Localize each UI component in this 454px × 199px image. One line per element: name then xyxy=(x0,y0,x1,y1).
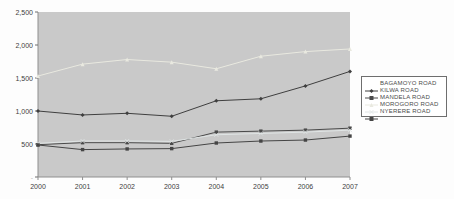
legend-triangle-marker-icon xyxy=(365,94,380,100)
legend-label: MOROGORO ROAD xyxy=(380,101,439,107)
legend-square-marker-icon xyxy=(365,87,380,93)
y-axis-tick-label: 1,000 xyxy=(15,108,33,115)
x-axis-tick-label: 2003 xyxy=(164,183,180,190)
y-axis-tick-label: - xyxy=(31,174,34,181)
data-point-star xyxy=(215,141,218,144)
legend-item: KILWA ROAD xyxy=(365,86,443,93)
legend-label: KILWA ROAD xyxy=(380,87,419,93)
data-point-star xyxy=(170,147,173,150)
data-point-star xyxy=(81,148,84,151)
x-axis-tick-label: 2005 xyxy=(253,183,269,190)
legend-star-marker-icon xyxy=(365,108,380,114)
legend: BAGAMOYO ROAD KILWA ROAD MANDELA ROAD MO… xyxy=(361,76,447,117)
data-point-star xyxy=(259,139,262,142)
data-point-star xyxy=(125,147,128,150)
legend-label: MANDELA ROAD xyxy=(380,94,430,100)
data-point-star xyxy=(348,134,351,137)
plot-area xyxy=(38,12,350,177)
x-axis-tick-label: 2001 xyxy=(75,183,91,190)
x-axis-tick-label: 2000 xyxy=(30,183,46,190)
data-point-star xyxy=(36,143,39,146)
legend-item: NYERERE ROAD xyxy=(365,107,443,114)
x-axis-tick-label: 2006 xyxy=(298,183,314,190)
y-axis-tick-label: 1,500 xyxy=(15,75,33,82)
x-axis-tick-label: 2002 xyxy=(119,183,135,190)
legend-diamond-marker-icon xyxy=(365,80,380,86)
legend-item: MOROGORO ROAD xyxy=(365,100,443,107)
legend-item: BAGAMOYO ROAD xyxy=(365,79,443,86)
legend-label: NYERERE ROAD xyxy=(380,108,430,114)
y-axis-tick-label: 2,000 xyxy=(15,42,33,49)
legend-label: BAGAMOYO ROAD xyxy=(380,80,437,86)
y-axis-tick-label: 500 xyxy=(21,141,33,148)
chart-container: 2,5002,0001,5001,000500-2000200120022003… xyxy=(0,0,454,199)
legend-item: MANDELA ROAD xyxy=(365,93,443,100)
x-axis-tick-label: 2004 xyxy=(208,183,224,190)
x-axis-tick-label: 2007 xyxy=(342,183,358,190)
y-axis-tick-label: 2,500 xyxy=(15,9,33,16)
legend-x-marker-icon xyxy=(365,101,380,107)
data-point-star xyxy=(304,138,307,141)
